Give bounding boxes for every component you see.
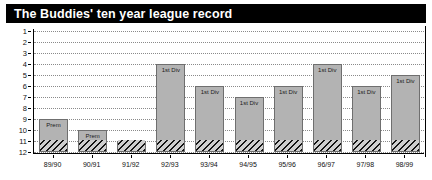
bar[interactable]: 1st Div	[391, 75, 420, 152]
bar-value-label: 1st Div	[392, 78, 419, 84]
bar[interactable]: 1st Div	[274, 86, 303, 152]
bar[interactable]: Prem	[117, 141, 146, 152]
x-axis-label: 93/94	[200, 161, 218, 168]
x-axis-label: 96/97	[317, 161, 335, 168]
y-axis-tick	[28, 31, 31, 32]
bar[interactable]: 1st Div	[235, 97, 264, 152]
page-title: The Buddies' ten year league record	[14, 7, 232, 21]
y-axis-tick	[28, 75, 31, 76]
y-axis-label: 2	[3, 38, 27, 47]
x-axis-tick	[131, 155, 132, 158]
y-axis-label: 10	[3, 126, 27, 135]
bar-value-label: Prem	[40, 122, 67, 128]
bar-value-label: Prem	[79, 133, 106, 139]
relegation-zone-hatch	[40, 140, 67, 151]
x-axis-label: 94/95	[239, 161, 257, 168]
plot-area: PremPremPrem1st Div1st Div1st Div1st Div…	[34, 29, 424, 153]
plot-frame: PremPremPrem1st Div1st Div1st Div1st Div…	[33, 29, 424, 154]
x-axis-label: 92/93	[161, 161, 179, 168]
y-axis-tick	[28, 130, 31, 131]
x-axis-tick	[53, 155, 54, 158]
bar-value-label: 1st Div	[314, 67, 341, 73]
y-axis-tick	[28, 152, 31, 153]
bar-value-label: 1st Div	[236, 100, 263, 106]
gridline	[34, 64, 424, 65]
relegation-zone-hatch	[353, 140, 380, 151]
gridline	[34, 152, 424, 153]
bar[interactable]: Prem	[78, 130, 107, 152]
x-axis-tick	[248, 155, 249, 158]
x-axis-tick	[326, 155, 327, 158]
bar-value-label: 1st Div	[353, 89, 380, 95]
x-axis-label: 98/99	[396, 161, 414, 168]
bar-value-label: 1st Div	[196, 89, 223, 95]
y-axis-label: 6	[3, 82, 27, 91]
y-axis-tick	[28, 53, 31, 54]
relegation-zone-hatch	[118, 140, 145, 151]
relegation-zone-hatch	[157, 140, 184, 151]
x-axis-tick	[365, 155, 366, 158]
y-axis-tick	[28, 108, 31, 109]
gridline	[34, 31, 424, 32]
gridline	[34, 53, 424, 54]
relegation-zone-hatch	[79, 140, 106, 151]
chart-page: The Buddies' ten year league record 1234…	[0, 0, 432, 180]
y-axis-label: 4	[3, 60, 27, 69]
relegation-zone-hatch	[314, 140, 341, 151]
y-axis-tick	[28, 42, 31, 43]
x-axis-tick	[404, 155, 405, 158]
chart-title-bar: The Buddies' ten year league record	[6, 4, 426, 23]
y-axis-tick	[28, 119, 31, 120]
y-axis-tick	[28, 97, 31, 98]
x-axis-tick	[209, 155, 210, 158]
relegation-zone-hatch	[236, 140, 263, 151]
y-axis-label: 11	[3, 137, 27, 146]
relegation-zone-hatch	[275, 140, 302, 151]
y-axis-tick	[28, 64, 31, 65]
bar[interactable]: 1st Div	[156, 64, 185, 152]
x-axis-tick	[287, 155, 288, 158]
y-axis-label: 12	[3, 148, 27, 157]
y-axis-label: 7	[3, 93, 27, 102]
gridline	[34, 75, 424, 76]
y-axis-label: 3	[3, 49, 27, 58]
x-axis-label: 89/90	[44, 161, 62, 168]
y-axis-label: 9	[3, 115, 27, 124]
y-axis-label: 8	[3, 104, 27, 113]
x-axis: 89/9090/9191/9292/9393/9494/9595/9696/97…	[33, 155, 424, 177]
y-axis-tick	[28, 86, 31, 87]
bar[interactable]: Prem	[39, 119, 68, 152]
x-axis-label: 97/98	[357, 161, 375, 168]
relegation-zone-hatch	[392, 140, 419, 151]
y-axis-tick	[28, 141, 31, 142]
x-axis-label: 90/91	[83, 161, 101, 168]
x-axis-tick	[92, 155, 93, 158]
bar-value-label: 1st Div	[157, 67, 184, 73]
bar[interactable]: 1st Div	[352, 86, 381, 152]
y-axis-label: 1	[3, 27, 27, 36]
gridline	[34, 42, 424, 43]
bar[interactable]: 1st Div	[195, 86, 224, 152]
y-axis-label: 5	[3, 71, 27, 80]
y-axis: 123456789101112	[0, 29, 31, 154]
relegation-zone-hatch	[196, 140, 223, 151]
bar[interactable]: 1st Div	[313, 64, 342, 152]
x-axis-label: 95/96	[278, 161, 296, 168]
x-axis-label: 91/92	[122, 161, 140, 168]
x-axis-tick	[170, 155, 171, 158]
bar-value-label: 1st Div	[275, 89, 302, 95]
